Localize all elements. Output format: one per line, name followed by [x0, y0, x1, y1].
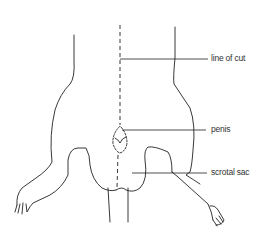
anatomy-diagram: [0, 0, 261, 235]
label-penis: penis: [211, 124, 230, 134]
right-body-outline: [174, 27, 200, 184]
penis-detail: [115, 137, 126, 143]
right-leg: [172, 172, 224, 226]
center-crotch: [116, 147, 172, 191]
left-shank: [108, 188, 110, 222]
label-scrotal-sac: scrotal sac: [211, 167, 249, 177]
line-of-cut-dashed-lower: [117, 155, 118, 188]
left-paw: [15, 148, 116, 214]
label-line-of-cut: line of cut: [211, 53, 245, 63]
